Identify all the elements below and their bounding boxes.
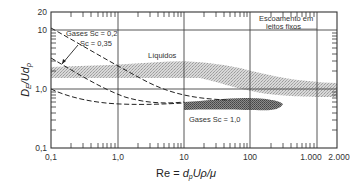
x-tick-100: 100 — [243, 152, 257, 162]
label-sc035: Sc = 0,35 — [80, 39, 112, 48]
y-tick-20: 20 — [38, 7, 48, 17]
gas-sc10-band — [184, 98, 283, 110]
x-tick-2000: 2.000 — [328, 152, 350, 162]
label-gases-sc10: Gases Sc = 1,0 — [189, 115, 241, 124]
y-tick-1: 1,0 — [35, 84, 47, 94]
x-tick-1: 1,0 — [112, 152, 124, 162]
label-gases-sc02: Gases Sc = 0,2 — [66, 29, 118, 38]
dispersion-chart: Gases Sc = 0,2 Sc = 0,35 Líquidos Gases … — [0, 0, 352, 187]
label-flow-line2: leitos fixos — [266, 22, 301, 31]
curve-gases-low — [51, 89, 184, 104]
label-liquidos: Líquidos — [148, 51, 177, 60]
liquid-band — [51, 61, 337, 97]
x-tick-10: 10 — [179, 152, 189, 162]
x-tick-0-1: 0,1 — [45, 152, 57, 162]
y-tick-10: 10 — [38, 25, 48, 35]
x-tick-1000: 1.000 — [300, 152, 322, 162]
x-axis-title: Re = dpUρ/μ — [156, 167, 216, 181]
y-axis-title: DE/Udp — [19, 63, 33, 97]
